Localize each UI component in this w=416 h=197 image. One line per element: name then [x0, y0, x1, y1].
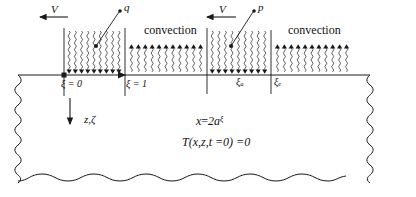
- eq-x-coef: 2a: [208, 114, 220, 128]
- convection-arrows-zone-1: [129, 44, 203, 72]
- source-dot-q: [94, 44, 98, 48]
- boundary-label-xi-e: ξe: [274, 77, 281, 88]
- xi-subscript-e: e: [278, 80, 281, 87]
- marker-dot-p: [252, 9, 256, 13]
- heat-flux-arrows-zone-2: [210, 31, 268, 74]
- leader-line-p: [229, 9, 256, 48]
- heat-flux-arrows-zone-1: [67, 31, 122, 74]
- boundary-label-xi-1: ξ = 1: [126, 79, 147, 89]
- convection-arrows-zone-2: [275, 44, 349, 72]
- figure-canvas: V V q ̇ p ̇ convection convection ξ = 0 …: [0, 0, 416, 197]
- velocity-label-left: V: [51, 4, 58, 15]
- equation-initial-condition: T(x,z,t =0) =0: [182, 136, 250, 148]
- velocity-label-right: V: [219, 4, 226, 15]
- depth-axis-label: z,ζ: [84, 114, 95, 125]
- xi-value-0: 0: [77, 78, 82, 89]
- equation-x-definition: x=2aξ: [196, 115, 224, 127]
- heat-source-label-q: q ̇: [124, 2, 130, 13]
- boundary-label-xi-a: ξa: [236, 77, 244, 88]
- leader-line-q: [94, 9, 122, 48]
- xi-rel-1: =: [133, 78, 140, 89]
- eq-x-xi: ξ: [220, 115, 223, 124]
- xi-rel-0: =: [68, 78, 75, 89]
- xi-subscript-a: a: [240, 80, 243, 87]
- right-wavy-edge: [367, 75, 373, 183]
- left-wavy-edge: [15, 75, 21, 183]
- p-symbol: p: [258, 1, 264, 13]
- q-symbol: q: [124, 1, 130, 13]
- xi-value-1: 1: [142, 78, 147, 89]
- convection-label-2: convection: [288, 24, 341, 36]
- body-outline: [15, 75, 373, 183]
- convection-label-1: convection: [144, 24, 197, 36]
- schematic-svg: [0, 0, 416, 197]
- source-dot-p: [229, 44, 233, 48]
- boundary-label-xi-0: ξ = 0: [61, 79, 82, 89]
- heat-source-label-p: p ̇: [258, 2, 264, 13]
- tick-square-xi0: [62, 73, 67, 78]
- marker-dot-q: [118, 9, 122, 13]
- bottom-wavy-edge: [18, 174, 346, 181]
